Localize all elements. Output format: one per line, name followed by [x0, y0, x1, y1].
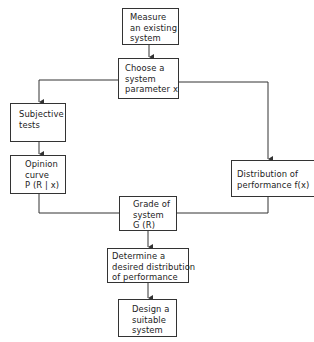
node-opinion-curve: Opinion curve P (R | x): [10, 155, 66, 194]
node-text-line: suitable: [132, 315, 172, 326]
node-text-line: an existing: [130, 23, 174, 34]
node-text-line: of performance: [112, 272, 184, 283]
node-text-line: Choose a: [125, 63, 174, 74]
node-text-line: curve: [25, 170, 61, 181]
node-text-line: system: [125, 74, 174, 85]
node-text-line: performance f(x): [237, 180, 311, 191]
node-subjective-tests: Subjective tests: [10, 103, 66, 142]
node-choose-system-parameter: Choose a system parameter x: [118, 58, 179, 99]
node-text-line: desired distribution: [112, 262, 184, 273]
edge-distribution-grade: [177, 197, 268, 213]
node-text-line: G (R): [133, 220, 172, 231]
node-text-line: Grade of: [133, 199, 172, 210]
node-text-line: Determine a: [112, 251, 184, 262]
edge-opinion-grade: [39, 194, 119, 213]
node-text-line: system: [132, 325, 172, 336]
edge-choose-subjective: [39, 80, 118, 102]
node-text-line: tests: [19, 120, 61, 131]
node-text-line: Design a: [132, 304, 172, 315]
node-determine-desired-distribution: Determine a desired distribution of perf…: [107, 248, 189, 283]
edge-choose-distribution: [179, 82, 268, 159]
node-grade-of-system: Grade of system G (R): [119, 196, 177, 231]
node-text-line: Distribution of: [237, 169, 311, 180]
node-text-line: Opinion: [25, 159, 61, 170]
node-text-line: parameter x: [125, 84, 174, 95]
node-design-suitable-system: Design a suitable system: [118, 299, 177, 337]
node-text-line: P (R | x): [25, 180, 61, 191]
node-text-line: Measure: [130, 12, 174, 23]
node-text-line: system: [130, 33, 174, 44]
node-distribution-of-performance: Distribution of performance f(x): [231, 160, 314, 197]
node-text-line: system: [133, 210, 172, 221]
node-text-line: Subjective: [19, 109, 61, 120]
node-measure-existing-system: Measure an existing system: [122, 8, 179, 45]
